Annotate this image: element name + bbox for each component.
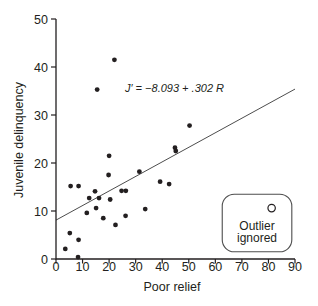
data-point	[119, 188, 124, 193]
data-point	[158, 179, 163, 184]
y-tick-label: 40	[34, 61, 48, 75]
x-tick-label: 10	[76, 260, 90, 274]
y-tick-label: 10	[34, 205, 48, 219]
data-point	[123, 213, 128, 218]
x-tick-label: 90	[288, 260, 302, 274]
outlier-label-line2: ignored	[237, 231, 277, 245]
data-point	[67, 231, 72, 236]
x-axis-title: Poor relief	[144, 280, 201, 294]
data-point	[106, 173, 111, 178]
y-tick-label: 50	[34, 13, 48, 27]
x-tick-label: 60	[208, 260, 222, 274]
x-tick-label: 80	[261, 260, 275, 274]
data-point	[63, 247, 68, 252]
data-point	[68, 184, 73, 189]
y-tick-label: 0	[41, 253, 48, 267]
data-point	[87, 196, 92, 201]
x-tick-label: 20	[102, 260, 116, 274]
outlier-point	[268, 204, 275, 211]
scatter-plot-figure: 010203040506070809001020304050 Poor reli…	[0, 0, 318, 306]
data-point	[76, 255, 81, 260]
data-point	[167, 182, 172, 187]
data-point	[173, 149, 178, 154]
regression-line	[56, 89, 295, 220]
data-point	[113, 223, 118, 228]
data-point	[94, 206, 99, 211]
data-point	[143, 207, 148, 212]
y-tick-label: 30	[34, 109, 48, 123]
data-point	[112, 57, 117, 62]
data-point	[76, 237, 81, 242]
data-point	[95, 87, 100, 92]
data-point	[123, 188, 128, 193]
data-point	[93, 189, 98, 194]
x-tick-label: 40	[155, 260, 169, 274]
x-tick-label: 30	[129, 260, 143, 274]
data-point	[137, 169, 142, 174]
data-point	[84, 211, 89, 216]
data-point	[97, 196, 102, 201]
x-tick-label: 0	[53, 260, 60, 274]
data-point	[108, 197, 113, 202]
data-point	[76, 184, 81, 189]
x-tick-label: 50	[182, 260, 196, 274]
data-point	[107, 153, 112, 158]
y-tick-label: 20	[34, 157, 48, 171]
data-point	[101, 216, 106, 221]
plot-canvas: 010203040506070809001020304050 Poor reli…	[0, 0, 318, 306]
x-tick-label: 70	[235, 260, 249, 274]
data-point	[187, 123, 192, 128]
y-axis-title: Juvenile delinquency	[12, 81, 26, 198]
regression-equation: J′ = −8.093 + .302 R	[124, 82, 224, 94]
